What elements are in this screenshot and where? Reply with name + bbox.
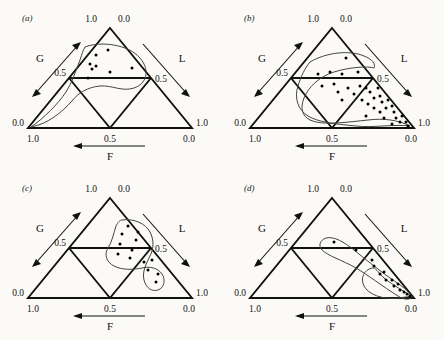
panel-c-tick-apex-right: 0.0 bbox=[118, 184, 130, 194]
panel-b-envelope-curve bbox=[296, 53, 410, 127]
panel-d-tick-bl-outer: 0.0 bbox=[234, 288, 246, 298]
panel-a-tick-right-mid: 0.5 bbox=[155, 74, 167, 84]
panel-a-axis-label-l: L bbox=[179, 52, 186, 64]
panel-a: (a) bbox=[0, 0, 222, 170]
panel-d-plot: 1.0 0.0 0.0 1.0 0.5 1.0 0.0 0.5 0.5 G L … bbox=[222, 170, 444, 340]
panel-c-envelope-curve bbox=[106, 220, 164, 291]
panel-b-tick-bl-outer: 0.0 bbox=[234, 118, 246, 128]
panel-c-tick-bottom-center: 0.5 bbox=[104, 304, 116, 314]
panel-b-tick-br-outer: 1.0 bbox=[418, 118, 430, 128]
ternary-diagram-figure: (a) bbox=[0, 0, 444, 340]
panel-d-tick-br-under: 0.0 bbox=[405, 304, 417, 314]
panel-a-axis-label-f: F bbox=[107, 150, 113, 162]
panel-b: (b) bbox=[222, 0, 444, 170]
panel-d: (d) bbox=[222, 170, 444, 340]
panel-a-tick-bl-under: 1.0 bbox=[27, 134, 39, 144]
panel-b-tick-br-under: 0.0 bbox=[405, 134, 417, 144]
panel-c-medial-lines bbox=[69, 248, 151, 298]
panel-d-tick-apex-left: 1.0 bbox=[307, 184, 319, 194]
panel-a-envelope-curve bbox=[31, 44, 146, 127]
panel-c-tick-bl-under: 1.0 bbox=[27, 304, 39, 314]
panel-c-axis-label-f: F bbox=[107, 320, 113, 332]
panel-a-tick-br-under: 0.0 bbox=[183, 134, 195, 144]
panel-d-axis-label-l: L bbox=[401, 222, 408, 234]
panel-c-axis-label-g: G bbox=[36, 222, 44, 234]
panel-c-tick-bl-outer: 0.0 bbox=[12, 288, 24, 298]
panel-a-tick-br-outer: 1.0 bbox=[196, 118, 208, 128]
panel-c-plot: 1.0 0.0 0.0 1.0 0.5 1.0 0.0 0.5 0.5 G L … bbox=[0, 170, 222, 340]
panel-d-envelope-curve bbox=[320, 238, 412, 300]
panel-d-tick-right-mid: 0.5 bbox=[377, 244, 389, 254]
panel-b-axis-label-g: G bbox=[258, 52, 266, 64]
panel-a-data-points bbox=[87, 49, 134, 80]
panel-c-tick-br-outer: 1.0 bbox=[196, 288, 208, 298]
panel-a-tick-bl-outer: 0.0 bbox=[12, 118, 24, 128]
panel-c-tick-apex-left: 1.0 bbox=[85, 184, 97, 194]
panel-d-tick-apex-right: 0.0 bbox=[340, 184, 352, 194]
panel-b-tick-left-mid: 0.5 bbox=[276, 68, 288, 78]
panel-b-plot: 1.0 0.0 0.0 1.0 0.5 1.0 0.0 0.5 0.5 G L … bbox=[222, 0, 444, 170]
panel-b-tick-right-mid: 0.5 bbox=[377, 74, 389, 84]
panel-b-tick-apex-right: 0.0 bbox=[340, 14, 352, 24]
panel-c-tick-br-under: 0.0 bbox=[183, 304, 195, 314]
panel-b-axis-label-f: F bbox=[329, 150, 335, 162]
panel-d-axis-label-g: G bbox=[258, 222, 266, 234]
panel-c: (c) bbox=[0, 170, 222, 340]
panel-a-axis-label-g: G bbox=[36, 52, 44, 64]
panel-a-plot: 1.0 0.0 0.0 1.0 0.5 1.0 0.0 0.5 0.5 G L … bbox=[0, 0, 222, 170]
panel-b-tick-apex-left: 1.0 bbox=[307, 14, 319, 24]
panel-b-tick-bl-under: 1.0 bbox=[249, 134, 261, 144]
panel-a-tick-apex-right: 0.0 bbox=[118, 14, 130, 24]
panel-c-tick-right-mid: 0.5 bbox=[155, 244, 167, 254]
panel-b-tick-bottom-center: 0.5 bbox=[326, 134, 338, 144]
panel-d-tick-left-mid: 0.5 bbox=[276, 238, 288, 248]
panel-a-tick-bottom-center: 0.5 bbox=[104, 134, 116, 144]
panel-b-axis-label-l: L bbox=[401, 52, 408, 64]
panel-c-tick-left-mid: 0.5 bbox=[54, 238, 66, 248]
panel-d-axis-label-f: F bbox=[329, 320, 335, 332]
panel-d-tick-bottom-center: 0.5 bbox=[326, 304, 338, 314]
panel-c-axis-label-l: L bbox=[179, 222, 186, 234]
panel-a-tick-left-mid: 0.5 bbox=[54, 68, 66, 78]
panel-d-tick-bl-under: 1.0 bbox=[249, 304, 261, 314]
panel-d-tick-br-outer: 1.0 bbox=[418, 288, 430, 298]
panel-a-tick-apex-left: 1.0 bbox=[85, 14, 97, 24]
panel-c-data-points bbox=[117, 225, 160, 284]
